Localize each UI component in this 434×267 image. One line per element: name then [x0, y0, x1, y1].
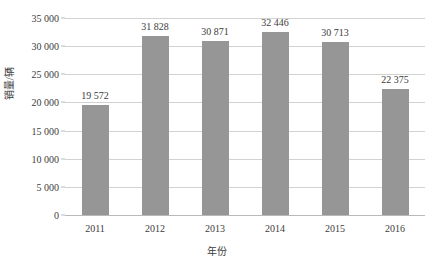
bar-value-label: 30 871 [201, 26, 229, 37]
bar-chart-figure: 销量/辆 05 00010 00015 00020 00025 00030 00… [0, 0, 434, 267]
gridline [65, 18, 425, 19]
bar: 30 7132015 [322, 42, 349, 215]
y-axis-tick-label: 0 [54, 210, 59, 221]
y-axis-tick-label: 35 000 [32, 13, 60, 24]
bar: 30 8712013 [202, 41, 229, 215]
x-axis-tick-label: 2016 [385, 223, 405, 234]
gridline [65, 159, 425, 160]
y-axis-tick-mark [61, 102, 65, 103]
x-axis-baseline [65, 215, 425, 216]
gridline [65, 102, 425, 103]
y-axis-tick-label: 5 000 [37, 181, 60, 192]
y-axis-tick-mark [61, 46, 65, 47]
x-axis-tick-label: 2013 [205, 223, 225, 234]
y-axis-tick-label: 15 000 [32, 125, 60, 136]
y-axis-tick-label: 25 000 [32, 69, 60, 80]
y-axis-tick-mark [61, 215, 65, 216]
x-axis-tick-label: 2012 [145, 223, 165, 234]
bar: 32 4462014 [262, 32, 289, 215]
y-axis-tick-mark [61, 186, 65, 187]
y-axis-tick-label: 20 000 [32, 97, 60, 108]
x-axis-tick-label: 2014 [265, 223, 285, 234]
y-axis-title: 销量/辆 [4, 49, 15, 119]
y-axis-tick-mark [61, 74, 65, 75]
bar-value-label: 32 446 [261, 17, 289, 28]
bar-value-label: 30 713 [321, 27, 349, 38]
gridline [65, 46, 425, 47]
gridline [65, 187, 425, 188]
bar-value-label: 31 828 [141, 21, 169, 32]
x-axis-title: 年份 [0, 243, 434, 258]
bar-value-label: 22 375 [381, 74, 409, 85]
y-axis-tick-mark [61, 18, 65, 19]
gridline [65, 131, 425, 132]
y-axis-tick-mark [61, 158, 65, 159]
bar: 31 8282012 [142, 36, 169, 215]
y-axis-tick-label: 10 000 [32, 153, 60, 164]
plot-area: 05 00010 00015 00020 00025 00030 00035 0… [65, 18, 425, 215]
bar: 22 3752016 [382, 89, 409, 215]
gridline [65, 74, 425, 75]
y-axis-tick-label: 30 000 [32, 41, 60, 52]
y-axis-tick-mark [61, 130, 65, 131]
x-axis-tick-label: 2015 [325, 223, 345, 234]
bar-value-label: 19 572 [81, 90, 109, 101]
x-axis-tick-label: 2011 [85, 223, 105, 234]
bar: 19 5722011 [82, 105, 109, 215]
